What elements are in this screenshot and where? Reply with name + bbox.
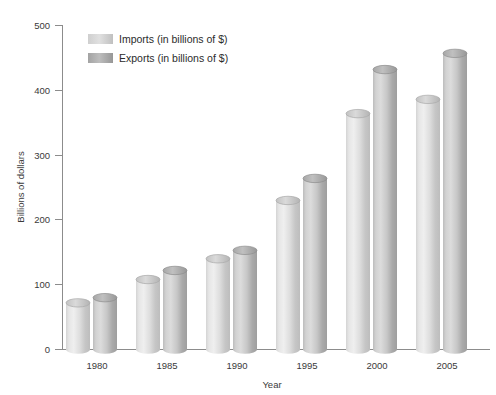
bar-body [136, 280, 160, 354]
y-tick-label-500: 500 [34, 20, 50, 31]
bar-cap [163, 266, 187, 274]
bar-exports-1990 [233, 246, 257, 354]
x-tick-label-1990: 1990 [226, 360, 247, 371]
bar-cap [303, 174, 327, 182]
legend-item-exports: Exports (in billions of $) [88, 52, 228, 64]
bar-imports-1980 [66, 299, 90, 354]
bar-body [303, 178, 327, 353]
y-axis-title: Billions of dollars [15, 151, 26, 223]
bar-exports-1980 [93, 293, 117, 353]
x-axis-title: Year [262, 379, 281, 390]
bar-cap [276, 196, 300, 204]
legend-label-imports: Imports (in billions of $) [119, 33, 228, 45]
bar-cap [93, 293, 117, 301]
bar-body [206, 259, 230, 354]
legend-swatch-exports [88, 53, 113, 63]
bar-imports-1985 [136, 275, 160, 353]
bar-imports-2005 [416, 95, 440, 354]
bar-chart: 500 400 300 200 100 0 Billions of dollar… [0, 0, 496, 395]
bar-body [346, 114, 370, 354]
y-tick-label-300: 300 [34, 150, 50, 161]
bar-body [233, 250, 257, 353]
bar-body [276, 200, 300, 353]
bar-cap [346, 109, 370, 117]
bar-body [416, 99, 440, 353]
legend-item-imports: Imports (in billions of $) [88, 33, 228, 45]
bar-cap [66, 299, 90, 307]
bar-cap [206, 255, 230, 263]
bar-imports-2000 [346, 109, 370, 353]
x-tick-label-1980: 1980 [86, 360, 107, 371]
y-tick-label-200: 200 [34, 214, 50, 225]
y-tick-label-100: 100 [34, 279, 50, 290]
bar-body [443, 53, 467, 353]
bar-cap [443, 49, 467, 57]
bar-cap [233, 246, 257, 254]
x-tick-label-2005: 2005 [436, 360, 457, 371]
bar-cap [373, 65, 397, 73]
bar-body [93, 298, 117, 354]
bar-body [373, 70, 397, 354]
bar-exports-1985 [163, 266, 187, 353]
bar-exports-2005 [443, 49, 467, 354]
bar-exports-2000 [373, 65, 397, 353]
chart-container: 500 400 300 200 100 0 Billions of dollar… [0, 0, 496, 395]
bar-body [163, 270, 187, 353]
bar-exports-1995 [303, 174, 327, 353]
legend-swatch-imports [88, 34, 113, 44]
legend-label-exports: Exports (in billions of $) [119, 52, 228, 64]
x-tick-label-1985: 1985 [156, 360, 177, 371]
bar-cap [416, 95, 440, 103]
x-tick-label-1995: 1995 [296, 360, 317, 371]
bar-imports-1990 [206, 255, 230, 354]
bar-cap [136, 275, 160, 283]
bar-imports-1995 [276, 196, 300, 353]
x-tick-label-2000: 2000 [366, 360, 387, 371]
y-tick-label-0: 0 [45, 344, 50, 355]
bar-body [66, 303, 90, 354]
y-tick-label-400: 400 [34, 85, 50, 96]
